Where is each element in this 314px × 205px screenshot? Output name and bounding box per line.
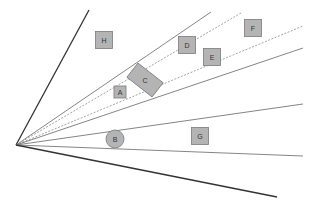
object-label: B: [113, 136, 118, 143]
object-a[interactable]: A: [114, 86, 126, 98]
ray-7: [16, 145, 303, 156]
object-f[interactable]: F: [245, 20, 262, 37]
object-g[interactable]: G: [192, 128, 209, 145]
ray-2: [16, 12, 211, 145]
ray-5: [16, 48, 303, 145]
object-label: C: [142, 77, 147, 84]
object-label: D: [184, 42, 189, 49]
ray-diagram: HDFECABG: [0, 0, 314, 205]
ray-6: [16, 104, 303, 145]
ray-8: [16, 145, 277, 197]
object-b[interactable]: B: [106, 130, 124, 148]
object-h[interactable]: H: [96, 32, 113, 49]
object-c[interactable]: C: [127, 63, 163, 97]
object-d[interactable]: D: [179, 37, 196, 54]
object-label: E: [210, 54, 215, 61]
object-label: F: [251, 25, 255, 32]
object-e[interactable]: E: [204, 49, 221, 66]
object-label: G: [197, 133, 202, 140]
ray-1: [16, 10, 89, 145]
object-label: H: [101, 37, 106, 44]
object-label: A: [118, 89, 123, 96]
